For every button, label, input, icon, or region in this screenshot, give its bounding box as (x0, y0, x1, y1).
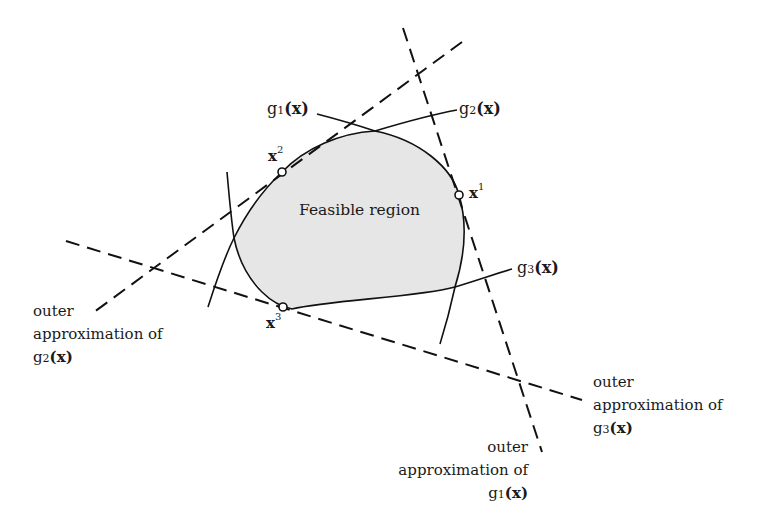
fn-arg: (x) (505, 484, 528, 502)
x3-sup: 3 (275, 311, 281, 322)
g2-arg: (x) (476, 99, 501, 118)
label-line1: outer (33, 300, 163, 323)
label-line3: g2(x) (33, 346, 163, 370)
point-x1-label: x1 (469, 183, 484, 202)
x1-sup: 1 (478, 181, 484, 192)
fn-name: g (488, 484, 498, 502)
label-line2: approximation of (33, 323, 163, 346)
x1-base: x (469, 184, 478, 202)
label-line1: outer (398, 436, 528, 459)
outer-approximation-g2-label: outer approximation of g2(x) (33, 300, 163, 370)
x2-sup: 2 (277, 144, 283, 155)
g3-arg: (x) (534, 258, 559, 277)
g3-name: g (517, 258, 527, 277)
g2-label: g2(x) (459, 99, 501, 118)
label-line3: g1(x) (398, 482, 528, 506)
fn-arg: (x) (610, 419, 633, 437)
fn-index: 2 (43, 352, 50, 365)
diagram-canvas (0, 0, 767, 530)
x2-base: x (268, 147, 277, 165)
fn-name: g (33, 348, 43, 366)
g1-label: g1(x) (267, 99, 309, 118)
point-x3-marker (279, 303, 287, 311)
point-x3-label: x3 (266, 313, 281, 332)
fn-index: 3 (603, 423, 610, 436)
outer-approximation-g1-label: outer approximation of g1(x) (398, 436, 528, 506)
outer-approximation-g3-label: outer approximation of g3(x) (593, 371, 723, 441)
feasible-region-label: Feasible region (299, 199, 420, 222)
g1-name: g (267, 99, 277, 118)
point-x2-label: x2 (268, 146, 283, 165)
g1-arg: (x) (284, 99, 309, 118)
g3-label: g3(x) (517, 258, 559, 277)
fn-arg: (x) (50, 348, 73, 366)
label-line2: approximation of (398, 459, 528, 482)
fn-index: 1 (498, 488, 505, 501)
g2-name: g (459, 99, 469, 118)
fn-name: g (593, 419, 603, 437)
point-x2-marker (278, 168, 286, 176)
point-x1-marker (455, 191, 463, 199)
label-line1: outer (593, 371, 723, 394)
x3-base: x (266, 314, 275, 332)
label-line3: g3(x) (593, 417, 723, 441)
label-line2: approximation of (593, 394, 723, 417)
